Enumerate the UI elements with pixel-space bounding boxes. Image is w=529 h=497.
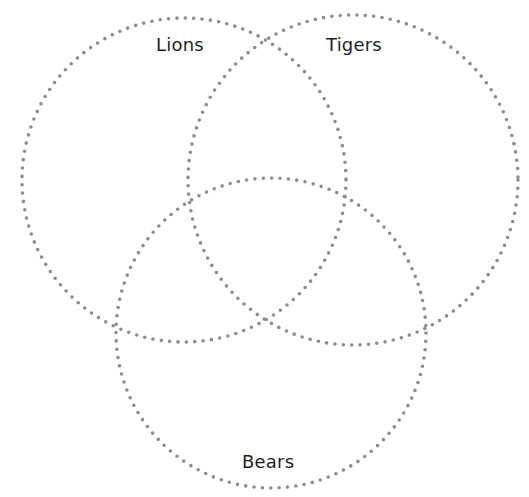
bears-label: Bears (242, 451, 294, 472)
venn-diagram (0, 0, 529, 497)
bears-circle (116, 178, 426, 488)
lions-label: Lions (156, 34, 204, 55)
tigers-label: Tigers (326, 34, 382, 55)
